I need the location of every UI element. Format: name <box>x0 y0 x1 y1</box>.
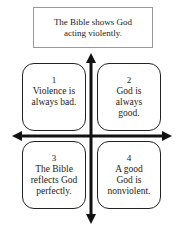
quadrant-text: perfectly. <box>36 186 72 196</box>
quadrant-number: 3 <box>23 153 85 164</box>
arrow-up-icon <box>86 53 96 63</box>
quadrant-number: 2 <box>98 75 160 86</box>
arrow-down-icon <box>86 214 96 224</box>
quadrant-text: God is <box>116 175 141 185</box>
quadrant-text: The Bible <box>35 164 73 174</box>
quadrant-number: 1 <box>23 75 85 86</box>
quadrant-number: 4 <box>98 153 160 164</box>
quadrant-text: always <box>116 97 142 107</box>
quadrant-text: always bad. <box>32 97 77 107</box>
quadrant-4: 4 A good God is nonviolent. <box>97 141 161 209</box>
quadrant-2: 2 God is always good. <box>97 63 161 131</box>
quadrant-text: Violence is <box>33 86 75 96</box>
quadrant-text: good. <box>118 108 139 118</box>
quadrant-text: God is <box>116 86 141 96</box>
arrow-left-icon <box>12 131 22 141</box>
quadrant-text: nonviolent. <box>107 186 150 196</box>
quadrant-text: A good <box>115 164 143 174</box>
quadrant-3: 3 The Bible reflects God perfectly. <box>22 141 86 209</box>
quadrant-1: 1 Violence is always bad. <box>22 63 86 131</box>
arrow-right-icon <box>162 131 172 141</box>
quadrant-text: reflects God <box>31 175 78 185</box>
